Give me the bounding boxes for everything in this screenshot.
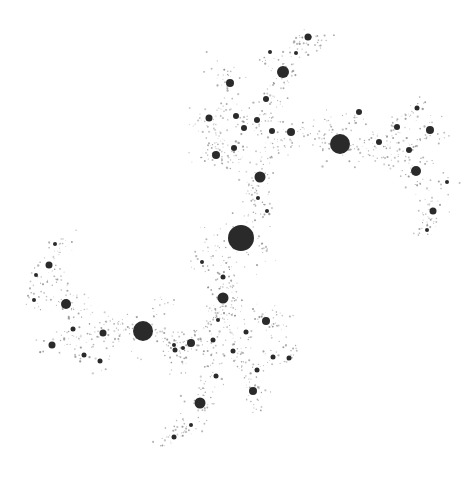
dust-dot <box>330 126 332 128</box>
dust-dot <box>268 177 270 179</box>
dust-dot <box>264 147 265 148</box>
dust-dot <box>109 320 111 322</box>
dust-dot <box>258 125 259 126</box>
dust-dot <box>281 78 283 80</box>
dust-dot <box>278 152 280 154</box>
dust-dot <box>242 146 244 148</box>
dust-dot <box>86 309 87 310</box>
dust-dot <box>374 145 376 147</box>
dust-dot <box>392 137 394 139</box>
dust-dot <box>274 305 275 306</box>
fractal-disc <box>212 151 220 159</box>
fractal-disc <box>100 330 107 337</box>
dust-dot <box>248 254 250 256</box>
dust-dot <box>274 97 275 98</box>
dust-dot <box>73 308 74 309</box>
dust-dot <box>417 139 418 140</box>
dust-dot <box>242 201 243 202</box>
dust-dot <box>205 137 207 139</box>
dust-dot <box>271 335 272 336</box>
dust-dot <box>375 138 376 139</box>
dust-dot <box>33 293 35 295</box>
dust-dot <box>247 182 248 183</box>
dust-dot <box>425 213 427 215</box>
dust-dot <box>213 305 214 306</box>
dust-dot <box>268 121 269 122</box>
dust-dot <box>263 213 265 215</box>
dust-dot <box>106 347 108 349</box>
dust-dot <box>435 226 436 227</box>
dust-dot <box>216 142 217 143</box>
dust-dot <box>313 119 315 121</box>
fractal-image: Julia set fractal (dendrite of discs) <box>0 0 476 481</box>
dust-dot <box>257 400 258 401</box>
dust-dot <box>180 413 181 414</box>
dust-dot <box>398 156 399 157</box>
dust-dot <box>194 334 196 336</box>
dust-dot <box>292 348 294 350</box>
dust-dot <box>223 240 225 242</box>
dust-dot <box>168 351 169 352</box>
dust-dot <box>397 160 399 162</box>
dust-dot <box>248 337 249 338</box>
dust-dot <box>299 35 300 36</box>
dust-dot <box>241 369 243 371</box>
dust-dot <box>233 360 235 362</box>
dust-dot <box>392 126 394 128</box>
dust-dot <box>258 321 259 322</box>
dust-dot <box>104 311 106 313</box>
dust-dot <box>48 272 49 273</box>
dust-dot <box>107 329 109 331</box>
dust-dot <box>261 392 262 393</box>
dust-dot <box>249 161 251 163</box>
fractal-disc <box>172 343 176 347</box>
dust-dot <box>224 81 226 83</box>
dust-dot <box>276 314 278 316</box>
dust-dot <box>161 331 163 333</box>
dust-dot <box>447 177 448 178</box>
dust-dot <box>78 312 80 314</box>
fractal-disc <box>53 242 57 246</box>
dust-dot <box>252 221 253 222</box>
dust-dot <box>271 117 273 119</box>
dust-dot <box>258 101 259 102</box>
dust-dot <box>226 166 228 168</box>
dust-dot <box>261 243 263 245</box>
dust-dot <box>223 271 225 273</box>
dust-dot <box>389 168 391 170</box>
dust-dot <box>410 159 411 160</box>
dust-dot <box>209 307 211 309</box>
dust-dot <box>87 333 89 335</box>
dust-dot <box>418 234 420 236</box>
dust-dot <box>287 154 288 155</box>
dust-dot <box>270 142 271 143</box>
dust-dot <box>170 347 172 349</box>
dust-dot <box>175 340 176 341</box>
dust-dot <box>159 331 161 333</box>
dust-dot <box>422 222 423 223</box>
dust-dot <box>217 60 218 61</box>
dust-dot <box>348 122 350 124</box>
dust-dot <box>204 409 206 411</box>
dust-dot <box>71 309 72 310</box>
dust-dot <box>427 216 428 217</box>
dust-dot <box>406 137 408 139</box>
dust-dot <box>262 202 264 204</box>
dust-dot <box>271 337 273 339</box>
dust-dot <box>328 120 330 122</box>
dust-dot <box>250 348 251 349</box>
dust-dot <box>424 101 426 103</box>
dust-dot <box>345 128 347 130</box>
dust-dot <box>67 284 68 285</box>
dust-dot <box>248 359 250 361</box>
dust-dot <box>76 294 77 295</box>
dust-dot <box>264 389 266 391</box>
dust-dot <box>179 352 181 354</box>
dust-dot <box>326 120 327 121</box>
dust-dot <box>405 114 407 116</box>
dust-dot <box>194 331 196 333</box>
dust-dot <box>34 267 35 268</box>
dust-dot <box>316 50 318 52</box>
dust-dot <box>318 130 320 132</box>
dust-dot <box>190 260 191 261</box>
